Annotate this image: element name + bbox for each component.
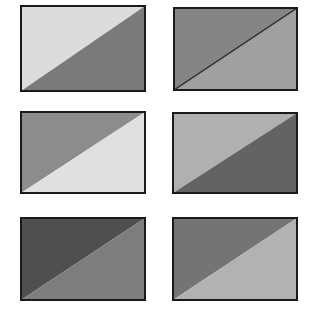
- panel-top-left: [21, 6, 145, 91]
- panel-middle-right: [173, 113, 297, 193]
- panel-bottom-right: [173, 218, 297, 300]
- panel-middle-left: [21, 112, 145, 193]
- panel-bottom-left: [21, 218, 145, 300]
- panel-top-right: [174, 8, 297, 90]
- diagonal-panels-figure: [0, 0, 310, 309]
